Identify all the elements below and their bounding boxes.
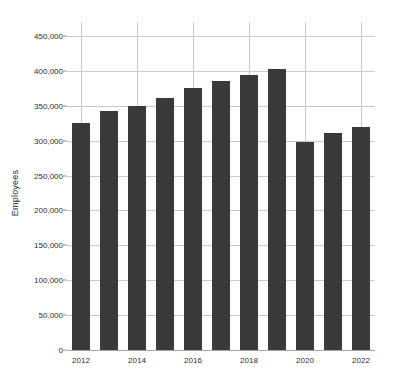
- bar[interactable]: [352, 127, 370, 350]
- x-axis-tick-label: 2022: [352, 356, 370, 365]
- y-axis-tick-label: 50,000: [3, 311, 63, 320]
- gridline-horizontal: [67, 71, 375, 72]
- gridline-horizontal: [67, 350, 375, 351]
- y-axis-tick-label: 100,000: [3, 276, 63, 285]
- bar[interactable]: [100, 111, 118, 350]
- gridline-horizontal: [67, 36, 375, 37]
- bar[interactable]: [324, 133, 342, 350]
- bar[interactable]: [72, 123, 90, 350]
- bar[interactable]: [128, 106, 146, 350]
- y-axis-tick-label: 400,000: [3, 66, 63, 75]
- bar[interactable]: [268, 69, 286, 350]
- y-axis-tick-label: 450,000: [3, 31, 63, 40]
- plot-area: [67, 22, 375, 350]
- x-axis-tick-label: 2012: [72, 356, 90, 365]
- y-axis-tick-label: 300,000: [3, 136, 63, 145]
- bar[interactable]: [296, 142, 314, 350]
- y-axis-tick-label: 0: [3, 346, 63, 355]
- x-axis-tick-label: 2014: [128, 356, 146, 365]
- bar[interactable]: [240, 75, 258, 350]
- bar[interactable]: [184, 88, 202, 350]
- y-axis-tick-label: 350,000: [3, 101, 63, 110]
- bar-chart: Employees 050,000100,000150,000200,00025…: [0, 0, 400, 385]
- y-axis-tick-label: 250,000: [3, 171, 63, 180]
- y-axis-title: Employees: [0, 0, 30, 385]
- bar[interactable]: [156, 98, 174, 350]
- y-axis-tick-label: 200,000: [3, 206, 63, 215]
- y-axis-tick-label: 150,000: [3, 241, 63, 250]
- bar[interactable]: [212, 81, 230, 350]
- x-axis-tick-label: 2016: [184, 356, 202, 365]
- x-axis-tick-label: 2018: [240, 356, 258, 365]
- x-axis-tick-label: 2020: [296, 356, 314, 365]
